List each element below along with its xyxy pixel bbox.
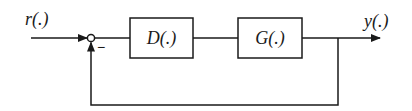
controller-label: D(.) [146,28,177,49]
feedback-minus-sign: − [97,39,105,55]
summing-junction [87,34,94,41]
output-label: y(.) [362,11,388,32]
input-label: r(.) [25,9,49,30]
block-diagram: r(.) − D(.) G(.) y(.) [0,0,412,111]
plant-label: G(.) [255,28,285,49]
